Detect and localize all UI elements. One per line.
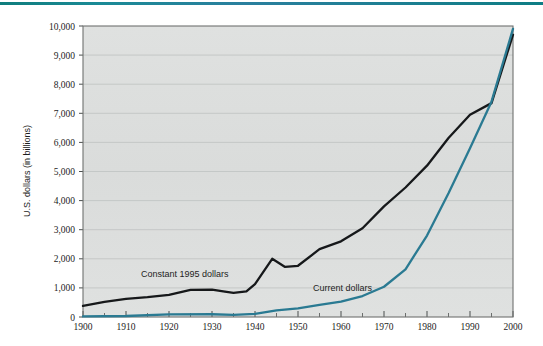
x-tick-label: 1900 — [74, 322, 93, 332]
x-tick-label: 1970 — [375, 322, 394, 332]
x-tick-label: 1990 — [461, 322, 480, 332]
series-annotation-label: Current dollars — [313, 283, 373, 293]
y-tick-label: 9,000 — [54, 51, 76, 61]
y-axis-title: U.S. dollars (in billions) — [22, 125, 32, 217]
x-tick-label: 1920 — [160, 322, 179, 332]
series-annotation-label: Constant 1995 dollars — [141, 269, 229, 279]
line-chart: 01,0002,0003,0004,0005,0006,0007,0008,00… — [0, 0, 543, 346]
x-tick-label: 2000 — [504, 322, 523, 332]
x-tick-label: 1930 — [203, 322, 222, 332]
x-tick-label: 1910 — [117, 322, 136, 332]
y-tick-label: 6,000 — [54, 138, 76, 148]
y-tick-label: 3,000 — [54, 225, 76, 235]
x-axis-tick-labels: 1900191019201930194019501960197019801990… — [74, 322, 523, 332]
y-tick-label: 2,000 — [54, 254, 76, 264]
x-tick-label: 1950 — [289, 322, 308, 332]
y-tick-label: 4,000 — [54, 196, 76, 206]
chart-figure: 01,0002,0003,0004,0005,0006,0007,0008,00… — [0, 0, 543, 346]
y-tick-label: 0 — [70, 313, 75, 323]
y-tick-label: 8,000 — [54, 80, 76, 90]
x-tick-label: 1980 — [418, 322, 437, 332]
y-tick-marks — [79, 26, 83, 317]
y-axis-tick-labels: 01,0002,0003,0004,0005,0006,0007,0008,00… — [49, 22, 75, 323]
y-tick-label: 5,000 — [54, 167, 76, 177]
y-tick-label: 7,000 — [54, 109, 76, 119]
x-tick-label: 1940 — [246, 322, 265, 332]
y-tick-label: 10,000 — [49, 22, 75, 32]
y-tick-label: 1,000 — [54, 283, 76, 293]
x-tick-label: 1960 — [332, 322, 351, 332]
